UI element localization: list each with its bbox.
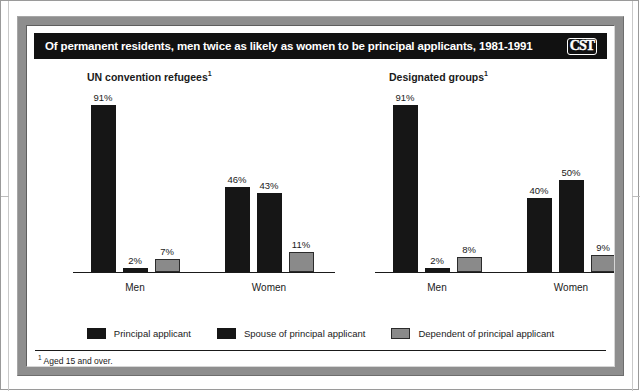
bar-label-left-women-dependent: 11% <box>292 239 310 250</box>
chart-panel-designated-groups: Designated groups1 91% 2% 8% Men 40% <box>375 70 615 318</box>
bar-left-men-spouse <box>123 268 148 272</box>
bar-label-right-men-dependent: 8% <box>462 244 476 255</box>
x-axis-line-left <box>73 272 335 273</box>
figure-frame: Of permanent residents, men twice as lik… <box>17 16 624 376</box>
bar-right-women-principal <box>527 198 552 272</box>
group-label-right-men: Men <box>427 282 446 293</box>
bar-left-women-dependent <box>289 252 314 272</box>
bar-label-left-men-spouse: 2% <box>128 255 142 266</box>
footnote-note-text: Aged 15 and over. <box>42 356 113 366</box>
page-edge-tick-right <box>632 196 640 197</box>
footnote-divider <box>35 350 606 351</box>
x-axis-line-right <box>375 272 615 273</box>
group-label-left-women: Women <box>252 282 286 293</box>
chart-legend: Principal applicant Spouse of principal … <box>27 324 614 342</box>
legend-item-dependent-of-principal-applicant: Dependent of principal applicant <box>391 328 554 339</box>
footnotes: 1 Aged 15 and over. Source: Citizenship … <box>38 354 279 367</box>
bar-left-men-dependent <box>155 259 180 272</box>
bar-label-left-women-principal: 46% <box>227 174 246 185</box>
panel-title-footnote-marker: 1 <box>208 70 212 77</box>
bar-right-men-dependent <box>457 257 482 272</box>
legend-label-spouse-of-principal-applicant: Spouse of principal applicant <box>244 328 365 339</box>
plot-area-right: 91% 2% 8% Men 40% 50% 9% Women <box>375 91 615 295</box>
bar-label-left-men-principal: 91% <box>93 92 112 103</box>
bar-right-men-principal <box>393 105 418 272</box>
legend-swatch-dependent-of-principal-applicant <box>391 328 410 339</box>
bar-left-women-spouse <box>257 193 282 272</box>
legend-item-spouse-of-principal-applicant: Spouse of principal applicant <box>217 328 365 339</box>
bar-label-left-men-dependent: 7% <box>160 246 174 257</box>
bar-label-right-men-principal: 91% <box>395 92 414 103</box>
legend-item-principal-applicant: Principal applicant <box>87 328 191 339</box>
group-label-left-men: Men <box>125 282 144 293</box>
group-label-right-women: Women <box>554 282 588 293</box>
chart-title-bar: Of permanent residents, men twice as lik… <box>34 33 607 59</box>
panel-title-designated-groups: Designated groups1 <box>389 70 488 83</box>
page-title: Of permanent residents, men twice as lik… <box>45 40 533 52</box>
cst-logo-icon: CST <box>566 36 598 55</box>
bar-right-women-spouse <box>559 180 584 272</box>
bar-label-right-women-spouse: 50% <box>561 167 580 178</box>
legend-label-dependent-of-principal-applicant: Dependent of principal applicant <box>418 328 554 339</box>
figure-inner: Of permanent residents, men twice as lik… <box>26 25 615 367</box>
legend-swatch-spouse-of-principal-applicant <box>217 328 236 339</box>
panel-title-un-convention-refugees: UN convention refugees1 <box>87 70 212 83</box>
bar-label-right-women-principal: 40% <box>529 185 548 196</box>
footnote-aged: 1 Aged 15 and over. <box>38 354 279 367</box>
legend-swatch-principal-applicant <box>87 328 106 339</box>
bar-label-right-women-dependent: 9% <box>596 242 610 253</box>
page-edge-tick-left <box>1 196 9 197</box>
plot-area-left: 91% 2% 7% Men 46% 43% 11% Women <box>73 91 335 295</box>
chart-panel-un-convention-refugees: UN convention refugees1 91% 2% 7% Men 46… <box>73 70 335 318</box>
bar-left-women-principal <box>225 187 250 272</box>
legend-label-principal-applicant: Principal applicant <box>114 328 191 339</box>
bar-right-men-spouse <box>425 268 450 272</box>
panel-title-footnote-marker: 1 <box>484 70 488 77</box>
cst-logo-text: CST <box>567 38 597 55</box>
bar-left-men-principal <box>91 105 116 272</box>
bar-label-left-women-spouse: 43% <box>259 180 278 191</box>
bar-right-women-dependent <box>591 255 615 272</box>
bar-label-right-men-spouse: 2% <box>430 255 444 266</box>
